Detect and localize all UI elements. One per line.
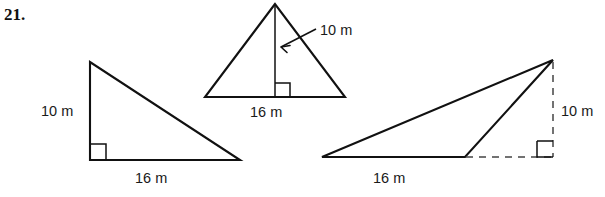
right-triangle-right-angle-marker [537, 141, 553, 157]
middle-triangle-right-angle-marker [275, 83, 290, 97]
left-triangle-right-angle-marker [90, 144, 106, 160]
middle-triangle-base-label: 16 m [250, 104, 282, 120]
middle-triangle-leader-arrow [281, 29, 316, 53]
worksheet-figure-panel: 21. 10 m 16 m 10 m 16 m 1 [0, 0, 605, 197]
left-right-triangle: 10 m 16 m [41, 62, 240, 186]
middle-triangle-height-label: 10 m [320, 22, 352, 38]
right-triangle-height-label: 10 m [561, 103, 593, 119]
problem-number: 21. [4, 5, 25, 24]
right-triangle-outline [322, 60, 553, 157]
left-triangle-outline [90, 62, 240, 160]
left-triangle-base-label: 16 m [135, 170, 167, 186]
right-obtuse-triangle: 10 m 16 m [322, 60, 593, 186]
middle-isosceles-triangle: 10 m 16 m [205, 4, 352, 120]
right-triangle-base-label: 16 m [373, 170, 405, 186]
triangles-diagram: 21. 10 m 16 m 10 m 16 m 1 [0, 0, 605, 197]
left-triangle-height-label: 10 m [41, 103, 73, 119]
